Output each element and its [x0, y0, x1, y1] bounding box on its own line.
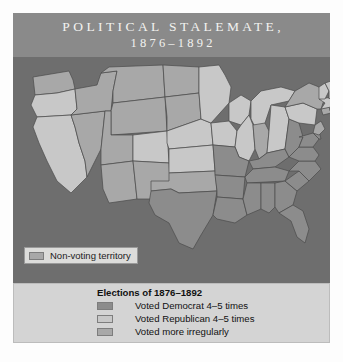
map-panel: Non-voting territory: [13, 57, 330, 283]
legend-label-irregular: Voted more irregularly: [135, 326, 229, 337]
political-stalemate-map-figure: POLITICAL STALEMATE, 1876–1892: [0, 0, 343, 362]
legend-label-democrat: Voted Democrat 4–5 times: [135, 300, 248, 311]
state-alabama: [261, 183, 275, 213]
state-tennessee: [245, 167, 289, 183]
legend-swatch-democrat: [97, 302, 113, 310]
legend-entry-irregular: Voted more irregularly: [97, 325, 329, 338]
state-north-dakota: [163, 65, 199, 97]
legend-swatch-republican: [97, 315, 113, 323]
state-shapes: [31, 65, 330, 249]
state-texas: [149, 189, 217, 249]
legend-entry-republican: Voted Republican 4–5 times: [97, 312, 329, 325]
state-arkansas: [215, 175, 245, 199]
state-colorado: [133, 131, 169, 163]
figure-title-line-2: 1876–1892: [127, 35, 215, 51]
state-wyoming: [111, 97, 167, 135]
legend-heading: Elections of 1876–1892: [97, 287, 329, 299]
state-arizona: [101, 161, 137, 203]
non-voting-territory-label: Non-voting territory: [50, 251, 131, 261]
legend-panel: Elections of 1876–1892 Voted Democrat 4–…: [13, 283, 330, 343]
legend-label-republican: Voted Republican 4–5 times: [135, 313, 254, 324]
figure-title-banner: POLITICAL STALEMATE, 1876–1892: [13, 13, 330, 57]
state-iowa: [211, 121, 237, 147]
state-minnesota: [199, 65, 231, 123]
non-voting-territory-callout: Non-voting territory: [24, 247, 138, 264]
legend-swatch-irregular: [97, 328, 113, 336]
non-voting-territory-swatch: [29, 252, 44, 260]
figure-title-line-1: POLITICAL STALEMATE,: [59, 19, 284, 35]
state-kansas: [169, 145, 215, 173]
state-idaho: [71, 71, 117, 115]
legend-entry-democrat: Voted Democrat 4–5 times: [97, 299, 329, 312]
state-florida: [279, 205, 309, 243]
state-mississippi: [243, 183, 261, 215]
state-louisiana: [213, 197, 247, 223]
